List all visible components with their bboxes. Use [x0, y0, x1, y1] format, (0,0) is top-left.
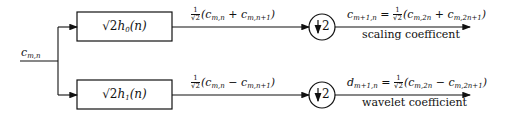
lowpass-filter-label: √2h0(n) — [77, 12, 172, 44]
expr-post: ) — [483, 76, 487, 89]
fraction: 1√2 — [191, 7, 200, 22]
op: + c — [225, 8, 247, 21]
expr-post: ) — [271, 76, 275, 89]
expr-post: ) — [271, 8, 275, 21]
frac-den: √2 — [394, 83, 403, 90]
sub1: m,2n — [414, 82, 432, 90]
sub2: m,n+1 — [247, 14, 271, 22]
frac-den: √2 — [393, 15, 402, 22]
wavelet-caption: wavelet coefficient — [362, 97, 467, 109]
expr-pre: (c — [403, 8, 413, 21]
top-mid-expression: 1√2(cm,n + cm,n+1) — [191, 7, 275, 24]
equals: = — [377, 8, 393, 21]
sqrt2: √2 — [102, 87, 117, 101]
bottom-downsample-factor: 2 — [322, 87, 330, 101]
input-label: cm,n — [21, 47, 41, 62]
bottom-mid-expression: 1√2(cm,n − cm,n+1) — [191, 75, 275, 92]
top-output-expression: cm+1,n = 1√2(cm,2n + cm,2n+1) — [347, 7, 486, 24]
sub1: m,2n — [413, 14, 431, 22]
sub1: m,n — [211, 14, 224, 22]
lhs: d — [347, 76, 354, 89]
scaling-caption: scaling coefficent — [362, 29, 460, 41]
top-downsample-factor: 2 — [322, 19, 330, 33]
op: + c — [431, 8, 453, 21]
fraction: 1√2 — [393, 7, 402, 22]
sub2: m,2n+1 — [454, 14, 482, 22]
highpass-filter-label: √2h1(n) — [77, 80, 172, 112]
op: − c — [225, 76, 247, 89]
equals: = — [378, 76, 394, 89]
expr-pre: (c — [201, 76, 211, 89]
filter-arg: (n) — [130, 87, 147, 101]
frac-den: √2 — [191, 15, 200, 22]
lhs-sub: m+1,n — [353, 14, 377, 22]
sub2: m,2n+1 — [455, 82, 483, 90]
sub2: m,n+1 — [247, 82, 271, 90]
fraction: 1√2 — [191, 75, 200, 90]
op: − c — [432, 76, 454, 89]
frac-den: √2 — [191, 83, 200, 90]
input-subscript: m,n — [27, 52, 40, 60]
sqrt2: √2 — [102, 19, 117, 33]
sub1: m,n — [211, 82, 224, 90]
expr-post: ) — [482, 8, 486, 21]
lhs-sub: m+1,n — [354, 82, 378, 90]
filter-arg: (n) — [130, 19, 147, 33]
bottom-output-expression: dm+1,n = 1√2(cm,2n − cm,2n+1) — [347, 75, 487, 92]
expr-pre: (c — [404, 76, 414, 89]
fraction: 1√2 — [394, 75, 403, 90]
expr-pre: (c — [201, 8, 211, 21]
